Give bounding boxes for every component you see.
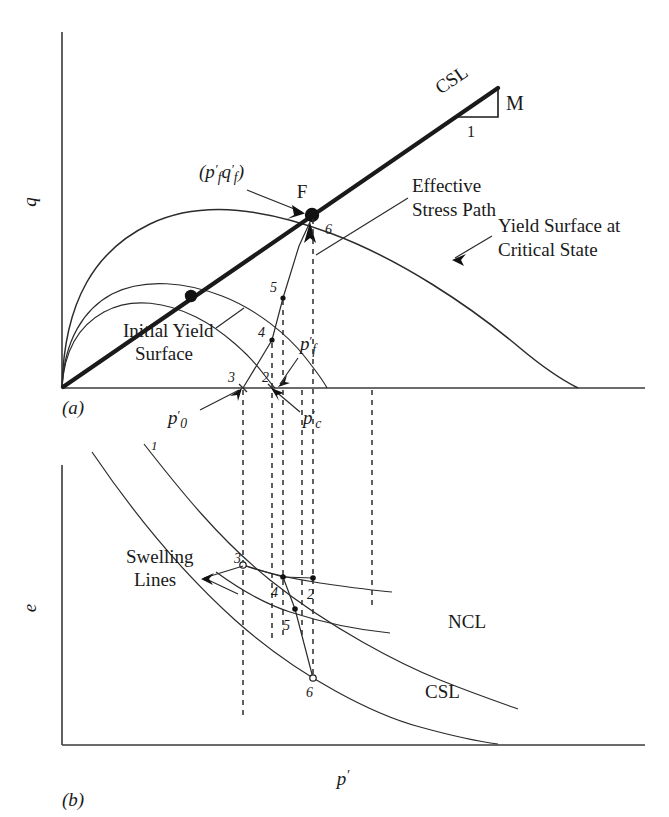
effective-stress-path-label-line1: Effective	[412, 175, 481, 196]
p-0-arrowhead	[230, 388, 242, 401]
point-label-6-b: 6	[306, 685, 313, 700]
p-f-label: p′f	[298, 333, 318, 357]
ncl-curve	[144, 444, 518, 709]
point-label-2-b: 2	[307, 587, 314, 602]
panel-b-x-axis-label: p′	[335, 768, 351, 789]
swelling-line-upper	[243, 565, 392, 592]
swelling-lines-arrowhead	[201, 573, 214, 585]
point-label-3-a: 3	[227, 370, 235, 385]
panel-b: e NCL CSL 1 3 4 2 5 6 Swelling Lines	[19, 438, 645, 811]
figure-root: q CSL M 1 (p′fq′f) F	[0, 0, 669, 817]
point-dot-4-a	[269, 337, 274, 342]
ncl-start-label: 1	[151, 438, 158, 453]
swelling-line-lower	[216, 572, 390, 633]
p-0-leader	[200, 390, 239, 410]
point-dot-5-b	[292, 606, 298, 612]
p-0-label: p′0	[166, 407, 187, 431]
csl-label-b: CSL	[425, 681, 460, 702]
slope-run-label: 1	[467, 123, 475, 140]
point-dot-5-a	[280, 295, 285, 300]
panel-b-label: (b)	[62, 789, 84, 811]
point-dot-4-b	[280, 574, 286, 580]
effective-stress-path-label-line2: Stress Path	[412, 199, 496, 220]
critical-state-diagram: q CSL M 1 (p′fq′f) F	[0, 0, 669, 817]
csl-label-a: CSL	[431, 61, 472, 98]
yield-surface-cs-label-line2: Critical State	[498, 239, 598, 260]
initial-yield-leader	[216, 308, 244, 328]
failure-coordinates-label: (p′fq′f)	[199, 161, 244, 185]
point-label-4-a: 4	[258, 325, 265, 340]
p-c-arrowhead	[271, 388, 284, 401]
point-dot-6-b	[310, 675, 316, 681]
yield-surface-cs-label-line1: Yield Surface at	[498, 215, 621, 236]
point-label-5-a: 5	[270, 280, 277, 295]
failure-point-dot	[305, 208, 319, 222]
p-c-label: p′c	[301, 407, 321, 431]
p-f-arrowhead	[278, 375, 290, 387]
panel-a: q CSL M 1 (p′fq′f) F	[19, 32, 645, 431]
swelling-lines-label-line2: Lines	[134, 569, 176, 590]
point-label-5-b: 5	[283, 618, 290, 633]
initial-yield-csl-intersection-dot	[185, 290, 197, 302]
slope-rise-label: M	[506, 92, 524, 114]
yield-surface-cs-leader	[455, 236, 492, 258]
effective-stress-path-curve	[243, 222, 310, 388]
panel-a-label: (a)	[62, 397, 84, 419]
point-dot-2-b	[310, 575, 316, 581]
initial-yield-label-line2: Surface	[135, 343, 193, 364]
point-label-3-b: 3	[233, 551, 241, 566]
panel-b-y-axis-label: e	[19, 604, 40, 612]
panel-a-y-axis-label: q	[19, 197, 40, 207]
point-label-2-a: 2	[262, 370, 269, 385]
point-label-6-a: 6	[325, 222, 332, 237]
point-label-4-b: 4	[271, 585, 278, 600]
initial-yield-label-line1: Initial Yield	[123, 320, 214, 341]
failure-point-letter: F	[297, 181, 308, 202]
swelling-lines-label-line1: Swelling	[126, 546, 194, 567]
ncl-label: NCL	[448, 611, 486, 632]
